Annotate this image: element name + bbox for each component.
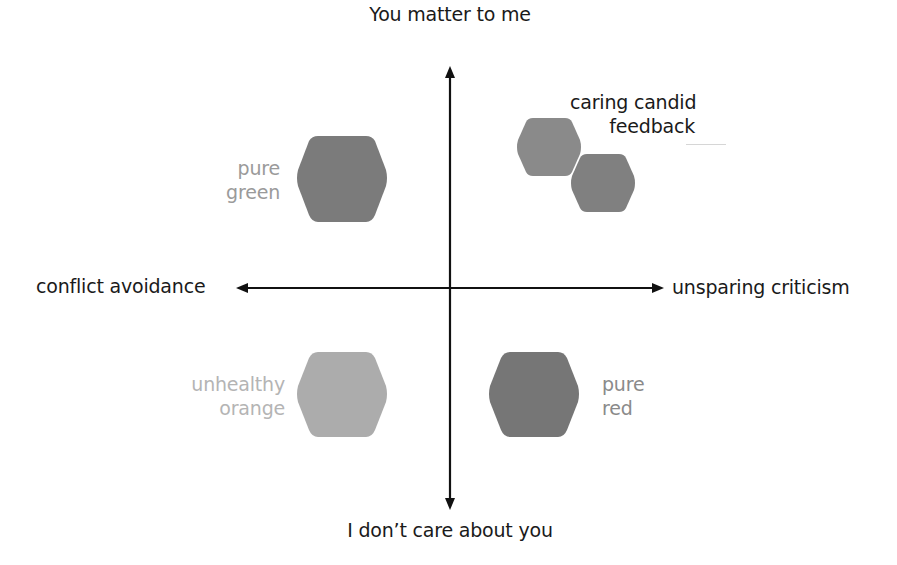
axis-label-left: conflict avoidance	[36, 275, 205, 297]
quadrant-label-line: pure	[602, 372, 644, 396]
quadrant-label-unhealthy-orange: unhealthy orange	[172, 372, 285, 420]
quadrant-label-line: unhealthy	[172, 372, 285, 396]
decorative-underline	[686, 144, 726, 145]
axis-label-bottom: I don’t care about you	[335, 519, 565, 541]
quadrant-label-line: red	[602, 396, 644, 420]
quadrant-label-line: orange	[172, 396, 285, 420]
quadrant-label-caring-candid-feedback: caring candid feedback	[570, 90, 695, 138]
hexagon-icon-unhealthy-orange	[297, 352, 387, 437]
quadrant-label-line: caring candid	[570, 90, 695, 114]
quadrant-label-line: green	[200, 180, 280, 204]
axis-label-right: unsparing criticism	[672, 276, 850, 298]
quadrant-label-pure-green: pure green	[200, 156, 280, 204]
quadrant-diagram: You matter to me I don’t care about you …	[0, 0, 897, 565]
hexagon-icon-pure-green	[297, 136, 387, 222]
quadrant-label-pure-red: pure red	[602, 372, 644, 420]
hexagon-icon-candid-2	[571, 154, 635, 212]
hexagon-icon-pure-red	[489, 352, 579, 437]
axis-label-top: You matter to me	[365, 3, 535, 25]
quadrant-label-line: pure	[200, 156, 280, 180]
quadrant-label-line: feedback	[570, 114, 695, 138]
